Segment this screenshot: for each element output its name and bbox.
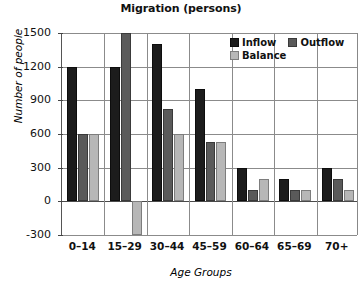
legend-label-outflow: Outflow — [300, 37, 344, 48]
bar-inflow-65–69 — [279, 179, 289, 201]
bar-balance-0–14 — [89, 134, 99, 201]
x-tick-label-45–59: 45–59 — [188, 240, 230, 252]
gridline-1200 — [62, 67, 357, 68]
y-tick-label-0: 0 — [0, 194, 51, 207]
group-separator-0–14 — [104, 33, 105, 235]
gridline--300 — [62, 235, 357, 236]
bar-inflow-45–59 — [195, 89, 205, 201]
y-tick-label-1500: 1500 — [0, 26, 51, 39]
group-separator-60–64 — [274, 33, 275, 235]
x-tick-label-15–29: 15–29 — [103, 240, 145, 252]
bar-inflow-0–14 — [67, 67, 77, 202]
gridline-600 — [62, 134, 357, 135]
group-separator-65–69 — [317, 33, 318, 235]
plot-area: 150012009006003000-300 — [61, 33, 358, 235]
bar-balance-60–64 — [259, 179, 269, 201]
y-tick-mark-1200 — [58, 67, 63, 68]
bar-outflow-30–44 — [163, 109, 173, 201]
y-tick-label-900: 900 — [0, 93, 51, 106]
bar-outflow-60–64 — [248, 190, 258, 201]
bar-outflow-65–69 — [290, 190, 300, 201]
legend-item-inflow: Inflow — [230, 37, 276, 48]
legend-item-outflow: Outflow — [288, 37, 344, 48]
bar-balance-45–59 — [216, 142, 226, 201]
x-tick-label-70+: 70+ — [316, 240, 358, 252]
legend-label-balance: Balance — [242, 50, 286, 61]
migration-bar-chart: Migration (persons) Number of people 150… — [0, 0, 362, 288]
gridline-0 — [62, 201, 357, 202]
y-tick-label-1200: 1200 — [0, 60, 51, 73]
bar-balance-30–44 — [174, 134, 184, 201]
y-tick-mark-600 — [58, 134, 63, 135]
x-tick-label-30–44: 30–44 — [146, 240, 188, 252]
legend-row-2: Balance — [230, 50, 360, 61]
bar-inflow-60–64 — [237, 168, 247, 202]
bar-outflow-70+ — [333, 179, 343, 201]
bar-balance-15–29 — [132, 201, 142, 235]
y-tick-mark-1500 — [58, 33, 63, 34]
x-tick-label-65–69: 65–69 — [273, 240, 315, 252]
bar-inflow-15–29 — [110, 67, 120, 202]
group-separator-45–59 — [232, 33, 233, 235]
bar-outflow-0–14 — [78, 134, 88, 201]
legend-item-balance: Balance — [230, 50, 286, 61]
chart-title: Migration (persons) — [0, 2, 362, 15]
y-tick-label--300: -300 — [0, 228, 51, 241]
y-tick-label-300: 300 — [0, 161, 51, 174]
bar-inflow-70+ — [322, 168, 332, 202]
bar-outflow-45–59 — [206, 142, 216, 201]
gridline-1500 — [62, 33, 357, 34]
legend-swatch-icon-inflow — [230, 38, 239, 47]
legend-swatch-icon-balance — [230, 51, 239, 60]
y-tick-label-600: 600 — [0, 127, 51, 140]
chart-legend: Inflow Outflow Balance — [230, 37, 360, 63]
y-tick-mark-0 — [58, 201, 63, 202]
y-tick-mark-900 — [58, 100, 63, 101]
group-separator-30–44 — [189, 33, 190, 235]
bar-balance-70+ — [344, 190, 354, 201]
group-separator-15–29 — [147, 33, 148, 235]
bar-inflow-30–44 — [152, 44, 162, 201]
x-tick-label-0–14: 0–14 — [61, 240, 103, 252]
gridline-900 — [62, 100, 357, 101]
x-tick-label-60–64: 60–64 — [231, 240, 273, 252]
y-tick-mark-300 — [58, 168, 63, 169]
bar-balance-65–69 — [301, 190, 311, 201]
legend-swatch-icon-outflow — [288, 38, 297, 47]
bar-outflow-15–29 — [121, 33, 131, 201]
legend-label-inflow: Inflow — [242, 37, 276, 48]
legend-row-1: Inflow Outflow — [230, 37, 360, 48]
x-axis-title: Age Groups — [40, 266, 362, 278]
y-tick-mark--300 — [58, 235, 63, 236]
